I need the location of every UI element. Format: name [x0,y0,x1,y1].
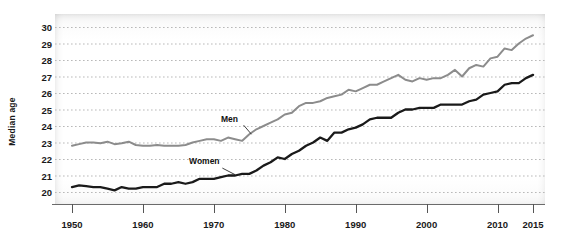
y-tick-label: 28 [6,55,52,66]
x-tick-mark [427,204,428,213]
x-tick-label: 2015 [522,219,543,230]
x-axis-line [52,204,545,205]
x-tick-mark [533,204,534,213]
series-label-women: Women [189,156,220,166]
y-axis-tick-labels: 2021222324252627282930 [0,0,52,243]
x-tick-mark [214,204,215,213]
annotation-leader-line [222,168,235,175]
y-tick-label: 21 [6,170,52,181]
y-tick-label: 30 [6,22,52,33]
y-tick-label: 23 [6,137,52,148]
x-tick-label: 1950 [61,219,82,230]
y-tick-label: 22 [6,154,52,165]
series-canvas [55,14,545,204]
y-tick-label: 26 [6,88,52,99]
x-tick-mark [498,204,499,213]
plot-area [55,14,545,204]
series-line-men [72,35,533,146]
y-tick-label: 24 [6,121,52,132]
median-age-line-chart: Median age 2021222324252627282930 195019… [0,0,565,243]
y-tick-label: 27 [6,71,52,82]
x-tick-mark [72,204,73,213]
x-tick-mark [356,204,357,213]
x-tick-label: 2010 [487,219,508,230]
x-tick-label: 1980 [274,219,295,230]
series-line-women [72,75,533,191]
series-label-men: Men [221,114,238,124]
y-tick-label: 29 [6,38,52,49]
x-tick-label: 1960 [132,219,153,230]
x-tick-label: 1970 [203,219,224,230]
y-tick-label: 25 [6,104,52,115]
x-tick-label: 1990 [345,219,366,230]
x-tick-label: 2000 [416,219,437,230]
y-tick-label: 20 [6,187,52,198]
x-tick-mark [143,204,144,213]
x-tick-mark [285,204,286,213]
